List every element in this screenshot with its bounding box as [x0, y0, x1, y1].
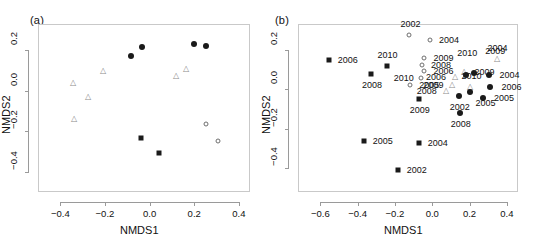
data-point-filled-square [369, 71, 374, 76]
data-point-open-triangle: △ [443, 87, 449, 95]
x-tick-label: 0.2 [188, 208, 201, 219]
data-point-filled-square [416, 96, 421, 101]
y-tick [285, 168, 289, 169]
data-point-filled-circle [463, 72, 469, 78]
panel-b-title: (b) [275, 14, 289, 26]
y-tick [25, 172, 29, 173]
x-tick [507, 202, 508, 206]
y-axis-line [28, 50, 29, 171]
data-point-filled-circle [203, 43, 209, 49]
data-point-filled-circle [486, 72, 492, 78]
x-tick-label: −0.4 [51, 208, 70, 219]
y-tick-label: 0.2 [268, 27, 279, 49]
data-point-open-circle [408, 82, 413, 87]
data-point-label: 2009 [410, 105, 430, 115]
y-tick [25, 50, 29, 51]
x-tick [239, 202, 240, 206]
x-tick [432, 202, 433, 206]
y-tick [25, 91, 29, 92]
x-tick-label: −0.2 [96, 208, 115, 219]
y-tick [285, 89, 289, 90]
data-point-filled-circle [467, 89, 473, 95]
data-point-label: 2008 [362, 80, 382, 90]
panel-b: (b) NMDS1 NMDS2 −0.6−0.4−0.20.00.20.40.2… [270, 0, 539, 248]
data-point-open-circle [422, 55, 427, 60]
data-point-label: 2010 [394, 73, 414, 83]
x-tick-label: −0.4 [348, 208, 367, 219]
data-point-label: 2009 [485, 46, 505, 56]
panel-b-x-axis-title: NMDS1 [384, 224, 423, 236]
data-point-filled-circle [457, 110, 463, 116]
data-point-filled-circle [471, 70, 477, 76]
y-tick-label: −0.4 [268, 146, 279, 168]
data-point-filled-square [395, 167, 400, 172]
panel-a: (a) NMDS1 NMDS2 −0.4−0.20.00.20.40.20.0−… [0, 0, 270, 248]
data-point-open-circle [428, 38, 433, 43]
data-point-label: 2006 [338, 55, 358, 65]
y-axis-line [288, 50, 289, 169]
x-tick [60, 202, 61, 206]
data-point-open-triangle: △ [173, 72, 179, 80]
x-tick [150, 202, 151, 206]
panel-a-x-axis-title: NMDS1 [120, 224, 159, 236]
data-point-filled-square [139, 135, 144, 140]
data-point-open-triangle: △ [70, 79, 76, 87]
data-point-open-circle [215, 139, 220, 144]
x-tick [470, 202, 471, 206]
x-tick-label: 0.4 [232, 208, 245, 219]
data-point-filled-square [416, 140, 421, 145]
y-tick-label: 0.0 [8, 68, 19, 90]
data-point-filled-circle [128, 53, 134, 59]
y-tick-label: −0.4 [8, 149, 19, 171]
y-tick [25, 131, 29, 132]
data-point-label: 2004 [439, 35, 459, 45]
data-point-label: 2002 [400, 19, 420, 29]
data-point-label: 2006 [501, 82, 521, 92]
data-point-open-triangle: △ [71, 115, 77, 123]
y-tick-label: −0.2 [8, 109, 19, 131]
data-point-filled-circle [139, 44, 145, 50]
x-tick [105, 202, 106, 206]
x-tick-label: −0.6 [311, 208, 330, 219]
x-tick [358, 202, 359, 206]
data-point-label: 2004 [428, 138, 448, 148]
data-point-label: 2008 [417, 86, 437, 96]
data-point-label: 2008 [451, 119, 471, 129]
data-point-open-triangle: △ [449, 81, 455, 89]
data-point-filled-square [326, 57, 331, 62]
data-point-open-circle [407, 33, 412, 38]
data-point-label: 2005 [494, 93, 514, 103]
data-point-filled-circle [191, 41, 197, 47]
data-point-filled-circle [456, 93, 462, 99]
x-tick [194, 202, 195, 206]
y-tick [285, 129, 289, 130]
data-point-open-circle [203, 121, 208, 126]
data-point-filled-square [384, 63, 389, 68]
nmds-figure: (a) NMDS1 NMDS2 −0.4−0.20.00.20.40.20.0−… [0, 0, 539, 248]
x-axis-line [320, 202, 506, 203]
data-point-open-triangle: △ [100, 67, 106, 75]
y-tick-label: 0.2 [8, 28, 19, 50]
data-point-label: 2005 [373, 136, 393, 146]
data-point-filled-square [361, 139, 366, 144]
data-point-label: 2002 [407, 165, 427, 175]
data-point-open-circle [419, 63, 424, 68]
y-tick-label: −0.2 [268, 106, 279, 128]
y-tick [285, 50, 289, 51]
data-point-filled-circle [487, 84, 493, 90]
data-point-open-triangle: △ [183, 65, 189, 73]
data-point-label: 2004 [500, 70, 520, 80]
x-tick-label: 0.0 [143, 208, 156, 219]
y-tick-label: 0.0 [268, 67, 279, 89]
data-point-label: 2010 [457, 48, 477, 58]
x-tick-label: 0.0 [426, 208, 439, 219]
x-tick-label: 0.4 [500, 208, 513, 219]
data-point-filled-square [156, 150, 161, 155]
x-tick-label: −0.2 [386, 208, 405, 219]
data-point-open-triangle: △ [85, 93, 91, 101]
data-point-label: 2005 [475, 98, 495, 108]
panel-a-plot-area [38, 24, 250, 192]
x-tick [320, 202, 321, 206]
x-tick-label: 0.2 [463, 208, 476, 219]
x-tick [395, 202, 396, 206]
